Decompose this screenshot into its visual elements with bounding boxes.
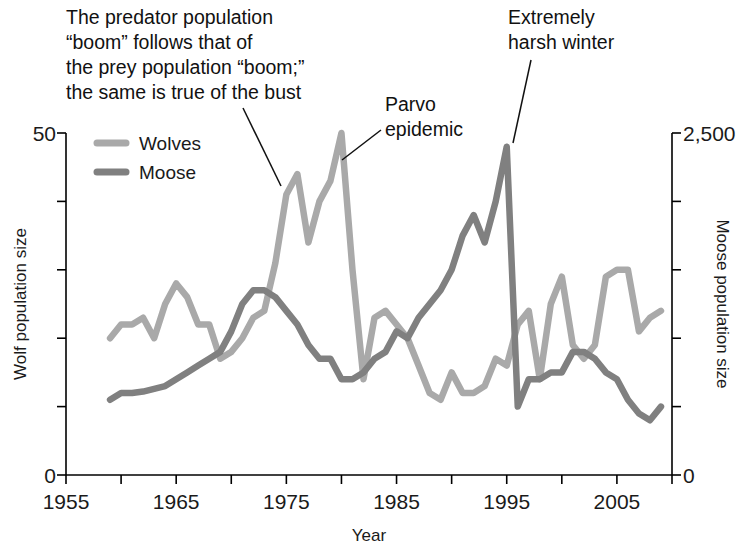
legend-label-moose: Moose (139, 162, 196, 183)
y-axis-right-ticks (672, 133, 681, 475)
annotation-boom-line-1: The predator population (66, 6, 273, 28)
annotation-parvo-line-2: epidemic (385, 118, 463, 140)
annotation-boom-line-3: the prey population “boom;” (66, 56, 304, 78)
y-axis-right-label-bottom: 0 (683, 464, 695, 487)
axes-group (66, 133, 672, 475)
wolf-moose-population-chart: 195519651975198519952005 50 0 2,500 0 Wo… (0, 0, 741, 552)
annotation-harsh-winter: Extremely harsh winter (508, 6, 615, 143)
annotation-parvo-line-1: Parvo (385, 93, 436, 115)
x-axis-title: Year (352, 526, 387, 545)
x-axis-ticks (66, 475, 672, 484)
figure-container: 195519651975198519952005 50 0 2,500 0 Wo… (0, 0, 741, 552)
x-axis-tick-label: 2005 (594, 490, 641, 513)
annotation-boom-leader-line (243, 108, 281, 186)
y-axis-left-label-bottom: 0 (44, 464, 56, 487)
annotation-boom-line-4: the same is true of the bust (66, 81, 302, 103)
series-line-moose (110, 147, 661, 421)
annotation-boom-line-2: “boom” follows that of (66, 31, 253, 53)
annotation-winter-line-2: harsh winter (508, 31, 615, 53)
x-axis-tick-label: 1955 (43, 490, 90, 513)
y-axis-right-title: Moose population size (713, 219, 732, 388)
annotation-winter-leader-line (513, 60, 531, 143)
legend-label-wolves: Wolves (139, 133, 201, 154)
annotation-parvo-leader-line (342, 130, 381, 160)
x-axis-tick-label: 1975 (263, 490, 310, 513)
y-axis-left-title: Wolf population size (11, 228, 30, 380)
annotation-winter-line-1: Extremely (508, 6, 595, 28)
x-axis-tick-labels: 195519651975198519952005 (43, 490, 641, 513)
annotation-parvo-epidemic: Parvo epidemic (342, 93, 463, 160)
annotation-predator-boom: The predator population “boom” follows t… (66, 6, 304, 186)
x-axis-tick-label: 1985 (373, 490, 420, 513)
y-axis-right-label-top: 2,500 (683, 122, 736, 145)
y-axis-left-ticks (57, 133, 66, 475)
y-axis-left-label-top: 50 (33, 122, 56, 145)
x-axis-tick-label: 1995 (483, 490, 530, 513)
x-axis-tick-label: 1965 (153, 490, 200, 513)
legend: Wolves Moose (97, 133, 201, 183)
